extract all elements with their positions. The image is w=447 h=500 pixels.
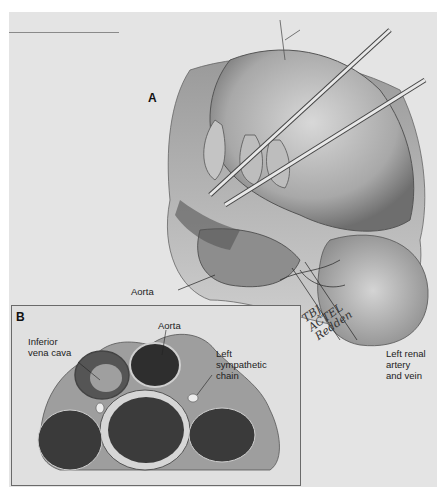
label-aorta-b: Aorta (158, 320, 181, 331)
label-inferior-vena-cava: Inferior vena cava (28, 336, 71, 358)
panel-b-cross-section (0, 0, 447, 500)
panel-b-letter: B (16, 310, 25, 324)
label-left-sympathetic-chain: Left sympathetic chain (216, 348, 267, 381)
